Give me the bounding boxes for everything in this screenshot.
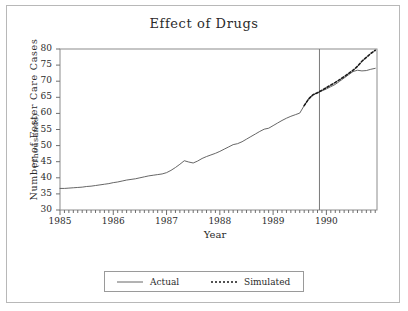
legend-swatch-solid-icon: [117, 278, 143, 286]
series-line-simulated: [304, 50, 375, 105]
legend: ActualSimulated: [104, 271, 304, 292]
legend-label: Simulated: [244, 277, 290, 287]
data-series: [60, 50, 375, 188]
plot-border: [60, 49, 377, 210]
legend-swatch-dotted-icon: [211, 278, 237, 286]
legend-item-simulated[interactable]: Simulated: [211, 275, 290, 289]
axes: [60, 49, 377, 210]
axis-ticks: [56, 49, 375, 215]
legend-item-actual[interactable]: Actual: [117, 275, 179, 289]
chart-screenshot: Effect of Drugs Number of Foster Care Ca…: [0, 0, 408, 311]
legend-label: Actual: [150, 277, 179, 287]
plot-area: [0, 0, 408, 311]
